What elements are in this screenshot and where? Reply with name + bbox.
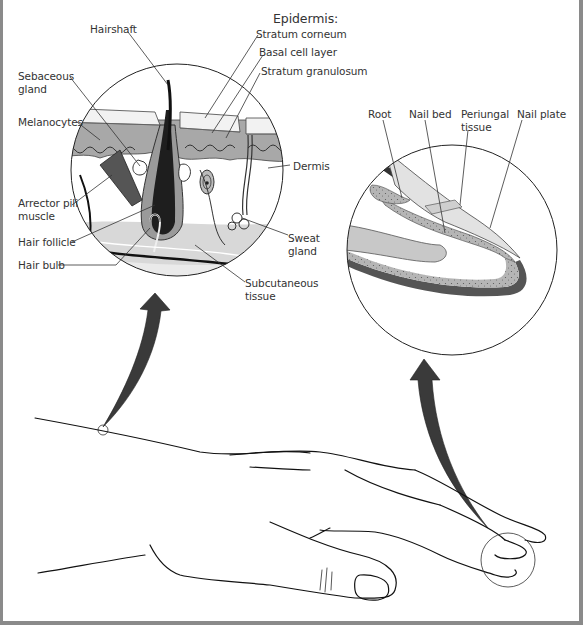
label-hairshaft: Hairshaft — [90, 23, 137, 36]
label-root: Root — [368, 108, 391, 121]
label-periungal-tissue: Periungal tissue — [461, 108, 509, 134]
label-nail-bed: Nail bed — [409, 108, 451, 121]
label-hair-bulb: Hair bulb — [18, 259, 65, 272]
diagram-illustration — [0, 0, 583, 625]
label-stratum-granulosum: Stratum granulosum — [261, 65, 368, 78]
nail-cross-section — [345, 140, 560, 360]
hand-outline — [35, 418, 546, 600]
label-sweat-gland: Sweat gland — [288, 232, 320, 258]
label-nail-plate: Nail plate — [517, 108, 566, 121]
label-melanocytes: Melanocytes — [18, 116, 83, 129]
epidermis-heading: Epidermis: — [273, 12, 338, 25]
label-sebaceous-gland: Sebaceous gland — [18, 70, 74, 96]
label-hair-follicle: Hair follicle — [18, 236, 76, 249]
label-basal-cell-layer: Basal cell layer — [259, 46, 337, 59]
label-arrector-pili-muscle: Arrector pili muscle — [18, 197, 78, 223]
skin-cross-section — [60, 60, 300, 300]
label-stratum-corneum: Stratum corneum — [256, 28, 347, 41]
label-subcutaneous-tissue: Subcutaneous tissue — [245, 277, 318, 303]
arrow-to-skin — [103, 293, 170, 427]
label-dermis: Dermis — [293, 160, 330, 173]
